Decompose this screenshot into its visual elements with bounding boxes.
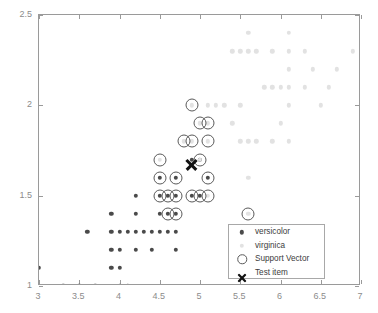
support-vector-circle-icon <box>229 253 255 267</box>
data-point-virginica <box>246 139 250 143</box>
data-point-virginica <box>270 85 274 89</box>
data-point-versicolor <box>133 230 137 234</box>
x-tick-label: 5.5 <box>233 291 246 301</box>
data-point-virginica <box>286 31 290 35</box>
support-vector-marker <box>202 189 215 202</box>
data-point-virginica <box>351 49 355 53</box>
data-point-versicolor <box>133 212 137 216</box>
data-point-virginica <box>286 49 290 53</box>
support-vector-marker <box>153 171 166 184</box>
legend-item-support-vector[interactable]: Support Vector <box>229 253 324 267</box>
data-point-virginica <box>246 175 250 179</box>
x-tick <box>361 280 362 284</box>
data-point-virginica <box>238 103 242 107</box>
legend-label: versicolor <box>255 228 290 236</box>
data-point-virginica <box>254 49 258 53</box>
y-tick-label: 2 <box>4 99 32 109</box>
data-point-virginica <box>286 67 290 71</box>
data-point-virginica <box>286 103 290 107</box>
x-tick-label: 4.5 <box>152 291 165 301</box>
x-tick-label: 6 <box>277 291 282 301</box>
x-tick-label: 6.5 <box>313 291 326 301</box>
data-point-versicolor <box>117 266 121 270</box>
x-tick-label: 3.5 <box>72 291 85 301</box>
data-point-versicolor <box>158 230 162 234</box>
data-point-virginica <box>206 103 210 107</box>
virginica-dot-icon <box>229 239 255 253</box>
data-point-virginica <box>319 103 323 107</box>
y-tick-right <box>355 286 359 287</box>
data-point-virginica <box>327 85 331 89</box>
support-vector-marker <box>202 117 215 130</box>
data-point-virginica <box>214 103 218 107</box>
support-vector-marker <box>242 207 255 220</box>
data-point-versicolor <box>109 230 113 234</box>
data-point-versicolor <box>85 230 89 234</box>
y-tick-label: 2.5 <box>4 9 32 19</box>
scatter-plot-figure: 33.544.555.566.57 11.522.5 versicolorvir… <box>0 0 378 313</box>
data-point-versicolor <box>125 230 129 234</box>
data-point-versicolor <box>166 230 170 234</box>
y-tick-label: 1 <box>4 280 32 290</box>
data-point-versicolor <box>117 230 121 234</box>
data-point-versicolor <box>133 248 137 252</box>
data-point-virginica <box>278 121 282 125</box>
chart-legend[interactable]: versicolorvirginicaSupport VectorTest it… <box>228 224 325 279</box>
data-point-virginica <box>286 139 290 143</box>
data-point-virginica <box>230 49 234 53</box>
data-point-virginica <box>230 121 234 125</box>
support-vector-marker <box>185 135 198 148</box>
x-tick-top <box>361 15 362 19</box>
data-point-versicolor <box>174 230 178 234</box>
data-point-virginica <box>302 49 306 53</box>
legend-item-test-item[interactable]: Test item <box>229 266 324 280</box>
legend-item-versicolor[interactable]: versicolor <box>229 226 324 240</box>
data-point-versicolor <box>149 248 153 252</box>
data-point-virginica <box>278 85 282 89</box>
legend-item-virginica[interactable]: virginica <box>229 239 324 253</box>
data-point-virginica <box>270 49 274 53</box>
data-point-versicolor <box>39 266 41 270</box>
support-vector-marker <box>185 99 198 112</box>
test-item-cross-icon <box>229 266 255 280</box>
data-point-versicolor <box>141 230 145 234</box>
data-point-virginica <box>310 67 314 71</box>
support-vector-marker <box>153 153 166 166</box>
support-vector-marker <box>169 207 182 220</box>
data-point-versicolor <box>109 248 113 252</box>
x-tick-label: 3 <box>35 291 40 301</box>
test-item-marker <box>185 158 198 171</box>
support-vector-marker <box>202 171 215 184</box>
x-tick-label: 5 <box>196 291 201 301</box>
support-vector-marker <box>202 135 215 148</box>
x-tick-label: 7 <box>357 291 362 301</box>
data-point-virginica <box>246 31 250 35</box>
x-tick-label: 4 <box>116 291 121 301</box>
legend-label: Test item <box>255 269 288 277</box>
support-vector-marker <box>169 171 182 184</box>
support-vector-marker <box>169 189 182 202</box>
data-point-versicolor <box>174 248 178 252</box>
data-point-virginica <box>335 67 339 71</box>
data-point-virginica <box>238 49 242 53</box>
data-point-virginica <box>254 139 258 143</box>
data-point-versicolor <box>117 248 121 252</box>
y-tick <box>39 286 43 287</box>
data-point-versicolor <box>133 193 137 197</box>
data-point-versicolor <box>109 212 113 216</box>
legend-label: Support Vector <box>255 255 309 263</box>
legend-label: virginica <box>255 242 285 250</box>
data-point-virginica <box>246 49 250 53</box>
data-point-virginica <box>222 103 226 107</box>
data-point-virginica <box>262 85 266 89</box>
data-point-virginica <box>286 85 290 89</box>
data-point-versicolor <box>109 266 113 270</box>
data-point-versicolor <box>149 230 153 234</box>
y-tick-label: 1.5 <box>4 190 32 200</box>
data-point-virginica <box>238 139 242 143</box>
versicolor-dot-icon <box>229 226 255 240</box>
data-point-virginica <box>302 85 306 89</box>
data-point-virginica <box>270 139 274 143</box>
